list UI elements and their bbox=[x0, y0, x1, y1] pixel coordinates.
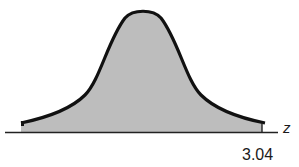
normal-curve-figure: z 3.04 bbox=[0, 0, 299, 167]
tick-label-3.04: 3.04 bbox=[242, 146, 273, 163]
axis-label-z: z bbox=[282, 119, 291, 136]
left-end-cap bbox=[21, 121, 24, 126]
